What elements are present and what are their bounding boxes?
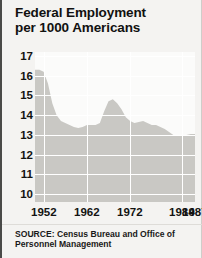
gridline-y-12 — [35, 155, 195, 156]
y-tick-label-15: 15 — [9, 90, 33, 101]
tick-x-1962 — [87, 52, 88, 202]
chart-title: Federal Employment per 1000 Americans — [15, 6, 195, 35]
y-tick-label-16: 16 — [9, 71, 33, 82]
gridline-y-11 — [35, 174, 195, 175]
x-tick-label-1962: 1962 — [74, 206, 100, 218]
tick-x-1972 — [130, 52, 131, 202]
gridline-y-16 — [35, 76, 195, 77]
gridline-y-15 — [35, 95, 195, 96]
x-axis: 19521962197219841987 — [2, 205, 202, 221]
tick-x-1952 — [44, 52, 45, 202]
area-series — [35, 52, 195, 202]
y-tick-label-13: 13 — [9, 130, 33, 141]
tick-x-1984 — [182, 52, 183, 202]
gridline-y-13 — [35, 135, 195, 136]
chart-title-line-1: Federal Employment — [15, 6, 195, 21]
source-note: SOURCE: Census Bureau and Office of Pers… — [15, 230, 195, 249]
gridline-y-17 — [35, 56, 195, 57]
x-tick-label-1952: 1952 — [31, 206, 57, 218]
y-tick-label-11: 11 — [9, 169, 33, 180]
y-tick-label-17: 17 — [9, 51, 33, 62]
x-tick-label-1972: 1972 — [117, 206, 143, 218]
x-tick-label-1987: 1987 — [182, 206, 202, 218]
y-tick-label-14: 14 — [9, 110, 33, 121]
footer-divider — [2, 224, 202, 225]
plot-area — [35, 52, 195, 202]
chart-figure: Federal Employment per 1000 Americans 17… — [0, 0, 202, 258]
y-tick-label-12: 12 — [9, 150, 33, 161]
y-tick-label-10: 10 — [9, 189, 33, 200]
gridline-y-14 — [35, 115, 195, 116]
source-note-line-2: Personnel Management — [15, 240, 195, 250]
gridline-y-10 — [35, 194, 195, 195]
chart-title-line-2: per 1000 Americans — [15, 21, 195, 36]
